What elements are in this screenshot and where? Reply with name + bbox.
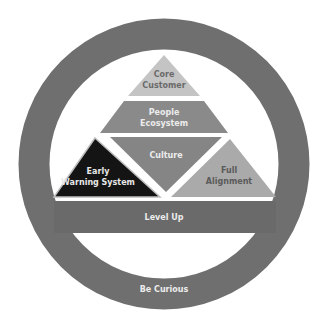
full-alignment-label-line1: Full — [221, 166, 238, 175]
tier-people-ecosystem — [100, 101, 228, 133]
people-ecosystem-label-line1: People — [149, 108, 180, 117]
level-up-label: Level Up — [145, 213, 184, 222]
full-alignment-label-line2: Alignment — [206, 177, 253, 186]
culture-label: Culture — [149, 151, 183, 160]
people-ecosystem-label-line2: Ecosystem — [140, 119, 188, 128]
curiosity-pyramid-diagram: Core Customer People Ecosystem Culture E… — [0, 0, 328, 319]
core-customer-label-line2: Customer — [142, 81, 185, 90]
early-warning-label-line1: Early — [87, 167, 111, 176]
be-curious-label: Be Curious — [140, 285, 189, 294]
core-customer-label-line1: Core — [154, 70, 175, 79]
early-warning-label-line2: Warning System — [61, 178, 135, 187]
